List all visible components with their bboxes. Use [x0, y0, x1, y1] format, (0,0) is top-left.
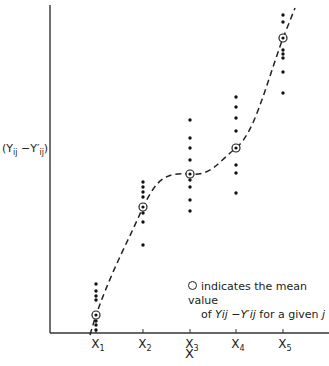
observation-dot — [281, 52, 284, 55]
observation-dot — [281, 56, 284, 59]
observation-dot — [234, 191, 237, 194]
x-tick-label-x1: X1 — [91, 337, 104, 353]
legend-row-1: indicates the mean value — [188, 280, 329, 308]
legend: indicates the mean value of Yij −Y′ij fo… — [188, 280, 329, 322]
x-tick-label-x5: X5 — [278, 337, 291, 353]
observation-dot — [281, 70, 284, 73]
observation-dot — [234, 116, 237, 119]
mean-dot — [141, 205, 144, 208]
observation-dot — [281, 91, 284, 94]
observation-dot — [141, 185, 144, 188]
observation-dot — [188, 198, 191, 201]
legend-expression: Yij −Y′ij — [215, 308, 256, 321]
observation-dot — [188, 158, 191, 161]
x-tick-label-x2: X2 — [138, 337, 151, 353]
observation-dot — [188, 146, 191, 149]
observation-dot — [188, 136, 191, 139]
observation-dot — [234, 129, 237, 132]
ylabel-part: ) — [44, 142, 48, 155]
observation-dot — [234, 171, 237, 174]
mean-markers — [92, 34, 287, 319]
observation-dot — [94, 319, 97, 322]
observation-dot — [188, 118, 191, 121]
observation-dot — [234, 95, 237, 98]
legend-text: indicates the mean value — [188, 280, 307, 307]
ylabel-part: (Y — [2, 142, 13, 155]
x-tick-label-x4: X4 — [231, 337, 244, 353]
legend-j: j — [322, 308, 325, 321]
legend-row-2: of Yij −Y′ij for a given j — [188, 308, 329, 322]
observation-dot — [94, 298, 97, 301]
observation-dot — [281, 20, 284, 23]
observation-dot — [141, 211, 144, 214]
x-axis-label: X — [185, 346, 194, 361]
observation-dot — [141, 243, 144, 246]
mean-circle-icon — [188, 281, 197, 290]
mean-dot — [188, 172, 191, 175]
observation-dot — [94, 294, 97, 297]
ylabel-part: −Y′ — [17, 142, 39, 155]
observation-dot — [94, 323, 97, 326]
observation-dot — [234, 105, 237, 108]
observation-dot — [94, 289, 97, 292]
mean-dot — [94, 313, 97, 316]
observation-dot — [94, 328, 97, 331]
observation-dot — [141, 220, 144, 223]
observation-dot — [234, 163, 237, 166]
observation-dot — [94, 282, 97, 285]
observation-dot — [188, 209, 191, 212]
legend-text: of — [201, 308, 215, 321]
observation-dot — [141, 195, 144, 198]
mean-dot — [234, 146, 237, 149]
observation-dot — [188, 178, 191, 181]
observation-dot — [141, 190, 144, 193]
mean-dot — [281, 36, 284, 39]
observation-dot — [188, 185, 191, 188]
observation-dot — [281, 13, 284, 16]
observation-dot — [281, 48, 284, 51]
observation-dot — [141, 180, 144, 183]
legend-text: for a given — [256, 308, 322, 321]
y-axis-label: (Yij −Y′ij) — [2, 142, 48, 157]
